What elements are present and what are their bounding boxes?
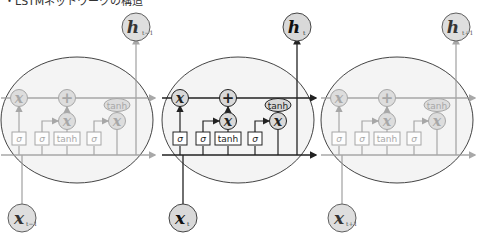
- svg-text:+: +: [381, 89, 394, 107]
- svg-text:t−1: t−1: [142, 29, 153, 36]
- svg-text:σ: σ: [39, 134, 45, 144]
- svg-text:x: x: [223, 113, 233, 129]
- svg-text:tanh: tanh: [218, 134, 238, 144]
- svg-text:x: x: [334, 90, 344, 106]
- svg-text:+: +: [61, 89, 74, 107]
- svg-text:x: x: [333, 208, 345, 228]
- cell-current-boundary: [162, 57, 314, 183]
- svg-text:tanh: tanh: [268, 101, 288, 111]
- svg-text:h: h: [127, 17, 139, 37]
- svg-text:tanh: tanh: [377, 134, 397, 144]
- svg-text:σ: σ: [16, 134, 22, 144]
- svg-text:t−1: t−1: [26, 220, 37, 227]
- svg-text:x: x: [13, 208, 25, 228]
- svg-text:σ: σ: [200, 134, 206, 144]
- svg-text:x: x: [382, 113, 392, 129]
- svg-text:x: x: [14, 90, 24, 106]
- svg-text:σ: σ: [336, 134, 342, 144]
- cell-next-boundary: [321, 57, 473, 183]
- svg-text:t+1: t+1: [346, 220, 357, 227]
- svg-text:σ: σ: [359, 134, 365, 144]
- svg-text:x: x: [112, 113, 122, 129]
- svg-text:x: x: [432, 113, 442, 129]
- svg-text:σ: σ: [252, 134, 258, 144]
- svg-text:x: x: [175, 90, 185, 106]
- svg-text:x: x: [174, 208, 186, 228]
- svg-text:t+1: t+1: [462, 29, 473, 36]
- svg-text:+: +: [222, 89, 235, 107]
- lstm-diagram: σσtanhσx+xxtanhht−1xt−1σσtanhσx+xxtanhht…: [0, 0, 483, 239]
- svg-text:σ: σ: [411, 134, 417, 144]
- svg-text:x: x: [273, 113, 283, 129]
- svg-text:h: h: [288, 17, 300, 37]
- svg-text:σ: σ: [91, 134, 97, 144]
- svg-text:h: h: [447, 17, 459, 37]
- svg-text:x: x: [62, 113, 72, 129]
- svg-text:tanh: tanh: [57, 134, 77, 144]
- svg-text:tanh: tanh: [427, 101, 447, 111]
- cell-prev-boundary: [1, 57, 153, 183]
- svg-text:tanh: tanh: [107, 101, 127, 111]
- svg-text:σ: σ: [177, 134, 183, 144]
